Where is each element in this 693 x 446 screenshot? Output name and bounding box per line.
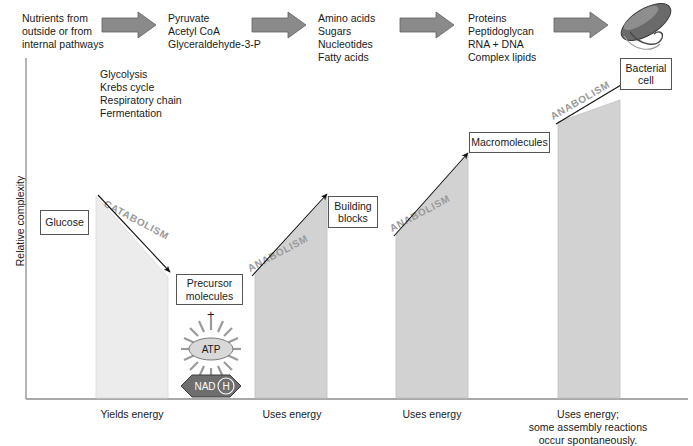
box-glucose: Glucose: [40, 210, 89, 235]
box-macromolecules: Macromolecules: [469, 132, 550, 153]
atp-glyph: ATP: [181, 318, 241, 380]
x-label-uses-energy-3: Uses energy; some assembly reactions occ…: [503, 408, 673, 446]
bar-anabolism-3: ANABOLISM: [549, 79, 627, 398]
x-label-uses-energy-2: Uses energy: [372, 408, 492, 421]
bar-anabolism-1: ANABOLISM: [246, 194, 327, 398]
x-label-uses-energy-1: Uses energy: [232, 408, 352, 421]
flow-arrow-2: [252, 12, 306, 38]
box-bacterial-cell: Bacterial cell: [620, 58, 672, 90]
bacterial-cell-illustration: [615, 0, 676, 49]
flow-arrow-4: [554, 12, 608, 38]
bar-anabolism-2: ANABOLISM: [388, 153, 468, 398]
flow-arrow-3: [400, 12, 454, 38]
nad-label: NAD: [194, 381, 215, 392]
box-precursor-molecules: Precursor molecules: [176, 274, 243, 305]
x-label-yields-energy: Yields energy: [72, 408, 192, 421]
plus-sign: +: [207, 307, 215, 322]
flow-arrow-1: [102, 12, 156, 38]
bar-catabolism: CATABOLISM: [96, 195, 171, 398]
atp-label: ATP: [202, 344, 221, 355]
nadh-glyph: NAD H: [181, 375, 241, 397]
metabolism-overview-figure: Nutrients from outside or from internal …: [0, 0, 693, 446]
box-building-blocks: Building blocks: [328, 196, 378, 228]
nad-h-label: H: [222, 381, 229, 392]
